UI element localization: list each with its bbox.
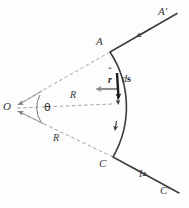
label-angle-theta: θ	[44, 102, 51, 113]
radius-bisector	[17, 104, 112, 108]
label-radius-upper: R	[70, 90, 76, 100]
label-current-I: I	[139, 169, 142, 179]
label-point-A: A	[96, 36, 103, 47]
diagram-canvas	[0, 0, 189, 208]
current-arrow-upper	[138, 28, 152, 36]
wire-segment-upper	[110, 14, 177, 53]
arc-direction-arrows	[115, 95, 118, 129]
label-point-A-prime: A′	[158, 6, 167, 17]
label-point-C-prime: C′	[160, 185, 170, 196]
radius-line-upper	[17, 52, 110, 105]
label-radius-lower: R	[53, 133, 59, 143]
radius-line-lower	[17, 111, 113, 157]
label-unit-vector-rhat: ˆ r	[104, 70, 116, 85]
label-element-ds: ds	[122, 74, 131, 84]
label-point-C: C	[99, 158, 106, 169]
physics-arc-diagram: O A C A′ C′ R R θ I ˆ r ds	[0, 0, 189, 208]
radius-arrow-lower	[20, 112, 44, 124]
element-ds-arrow	[117, 73, 119, 97]
ds-letter-s: s	[127, 73, 131, 84]
circular-arc-AC	[110, 52, 126, 157]
angle-arc-theta	[37, 95, 41, 122]
label-origin-O: O	[3, 101, 11, 112]
rhat-letter: r	[104, 75, 116, 85]
